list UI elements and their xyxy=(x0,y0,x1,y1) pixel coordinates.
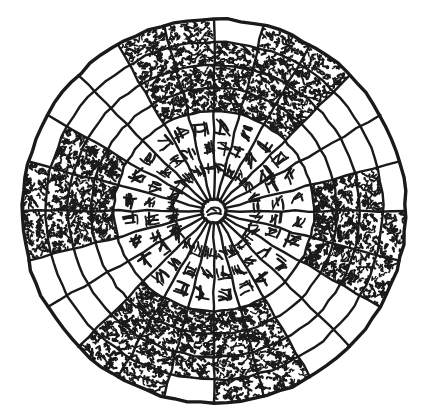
center-medallion xyxy=(202,199,227,223)
radial-spoke xyxy=(22,210,202,212)
hub-circle xyxy=(202,199,227,223)
figure-canvas xyxy=(0,0,428,418)
luopan-compass-diagram xyxy=(0,0,428,418)
